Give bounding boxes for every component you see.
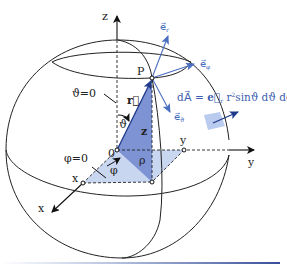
- x-point: [81, 181, 85, 185]
- x-axis-label: x: [38, 202, 45, 215]
- x-axis: [52, 183, 83, 212]
- rho-label: ρ: [139, 154, 145, 167]
- spherical-coordinates-diagram: z y x 0 P r⃗ ϑ=0 φ=0 ϑ φ ρ z x y e⃗r e⃗φ…: [0, 0, 287, 269]
- e-r-arrow: [152, 36, 168, 78]
- y-axis-label: y: [247, 156, 255, 169]
- x-point-label: x: [72, 172, 79, 185]
- area-element: [204, 112, 238, 130]
- theta-label: ϑ: [119, 118, 127, 131]
- bottom-gradient-bar: [0, 262, 280, 264]
- e-theta-label: e⃗ϑ: [174, 111, 185, 123]
- e-r-label: e⃗r: [160, 21, 169, 33]
- rho-foot-point: [150, 180, 154, 184]
- z-axis-label: z: [102, 10, 108, 23]
- y-point: [182, 148, 186, 152]
- y-point-label: y: [179, 134, 187, 147]
- z-height-label: z: [141, 125, 147, 138]
- phi-zero-label: φ=0: [64, 152, 88, 165]
- area-element-formula: dA⃗ = e⃗r r2sinϑ dϑ dφ: [177, 90, 287, 104]
- phi-label: φ: [110, 164, 118, 177]
- point-P: [150, 76, 154, 80]
- e-phi-label: e⃗φ: [200, 58, 210, 71]
- point-p-label: P: [137, 65, 145, 78]
- r-vector-label: r⃗: [127, 94, 139, 107]
- e-phi-arrow: [152, 64, 194, 78]
- origin-label: 0: [108, 147, 115, 160]
- origin-point: [115, 148, 119, 152]
- theta-zero-label: ϑ=0: [72, 87, 96, 100]
